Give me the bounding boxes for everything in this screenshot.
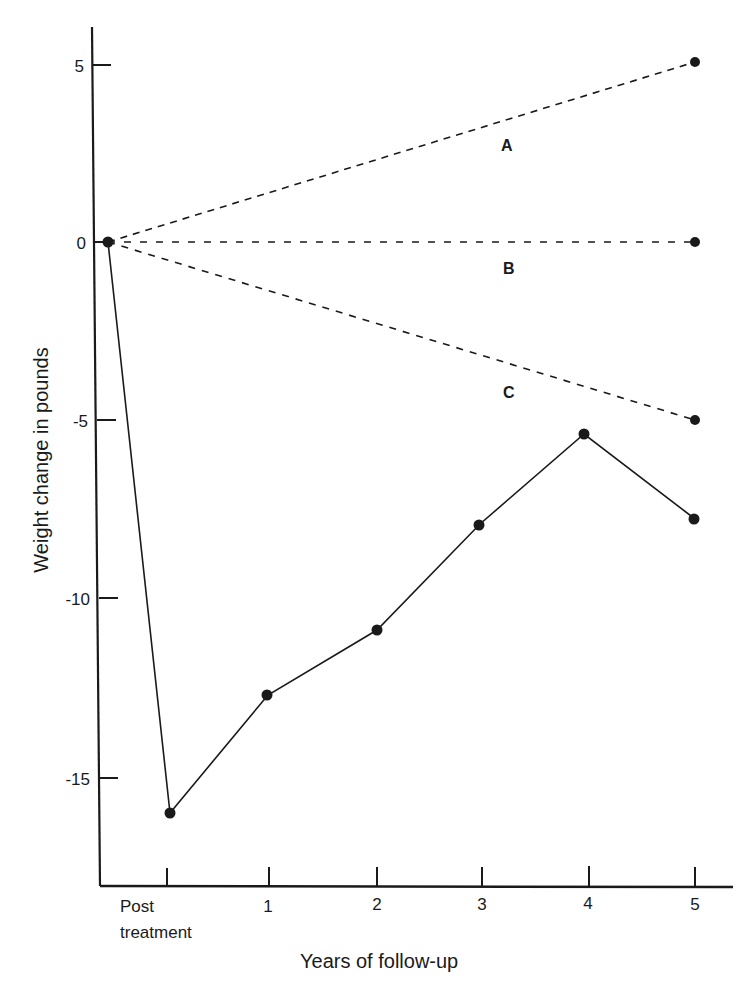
- y-tick-label: 5: [75, 57, 84, 76]
- data-point: [690, 237, 700, 247]
- x-tick-label: treatment: [120, 923, 192, 942]
- data-point: [690, 57, 700, 67]
- line-chart: 5 0 -5 -10 -15 Post treatment 1 2 3 4 5 …: [0, 0, 752, 986]
- series-label-a: A: [501, 137, 513, 154]
- data-point: [689, 514, 700, 525]
- series-a: [108, 57, 700, 242]
- series-c: [108, 242, 700, 425]
- x-tick-label: 1: [263, 897, 272, 916]
- data-point: [474, 520, 485, 531]
- y-tick-label: -5: [73, 412, 88, 431]
- x-axis: Post treatment 1 2 3 4 5: [100, 866, 733, 942]
- x-axis-title: Years of follow-up: [300, 950, 458, 972]
- x-tick-label: 4: [583, 894, 592, 913]
- y-axis-title: Weight change in pounds: [30, 347, 52, 572]
- x-tick-label: 2: [372, 895, 381, 914]
- y-axis: 5 0 -5 -10 -15: [65, 27, 118, 886]
- y-tick-label: 0: [77, 234, 86, 253]
- series-b: [108, 237, 700, 247]
- data-point: [103, 237, 114, 248]
- data-point: [690, 415, 700, 425]
- series-label-c: C: [503, 384, 515, 401]
- x-tick-label: 5: [690, 895, 699, 914]
- series-observed: [103, 237, 700, 819]
- data-point: [579, 429, 590, 440]
- series-label-b: B: [503, 260, 515, 277]
- x-tick-label: 3: [477, 895, 486, 914]
- data-point: [262, 690, 273, 701]
- data-point: [165, 808, 176, 819]
- y-tick-label: -15: [65, 770, 90, 789]
- x-tick-label: Post: [120, 897, 154, 916]
- y-tick-label: -10: [65, 590, 90, 609]
- data-point: [372, 625, 383, 636]
